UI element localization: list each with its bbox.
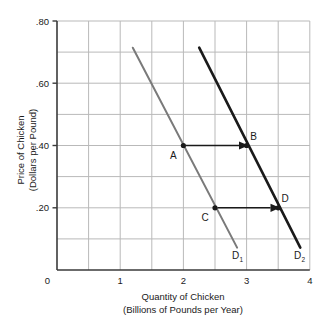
marker-label-d: D bbox=[282, 193, 289, 204]
chart-background bbox=[0, 0, 323, 320]
y-tick-label-origin: 0 bbox=[45, 275, 50, 286]
x-tick-label: 3 bbox=[244, 275, 249, 286]
y-tick-label: .80 bbox=[36, 16, 49, 27]
x-axis-title-main: Quantity of Chicken bbox=[142, 291, 225, 302]
marker-label-b: B bbox=[250, 131, 257, 142]
curve-label-d1: D bbox=[232, 250, 239, 261]
y-axis-title: Price of Chicken (Dollars per Pound) bbox=[15, 109, 38, 191]
x-tick-label: 2 bbox=[181, 275, 186, 286]
marker-point-b bbox=[244, 143, 249, 148]
y-axis-title-main: Price of Chicken bbox=[15, 115, 26, 184]
curve-label-d2-subscript: 2 bbox=[302, 256, 306, 263]
x-tick-label: 4 bbox=[307, 275, 312, 286]
curve-label-d2: D bbox=[294, 250, 301, 261]
demand-curve-chart: .80 .60 .40 .20 0 1 2 3 4 D 1 D 2 bbox=[0, 0, 323, 320]
marker-point-a bbox=[181, 143, 186, 148]
marker-point-c bbox=[212, 205, 217, 210]
marker-label-c: C bbox=[201, 212, 208, 223]
y-axis-title-sub: (Dollars per Pound) bbox=[27, 109, 38, 191]
chart-svg: .80 .60 .40 .20 0 1 2 3 4 D 1 D 2 bbox=[0, 0, 323, 320]
marker-point-d bbox=[276, 205, 281, 210]
marker-label-a: A bbox=[170, 150, 177, 161]
curve-label-d1-subscript: 1 bbox=[240, 256, 244, 263]
x-axis-title-sub: (Billions of Pounds per Year) bbox=[123, 304, 243, 315]
x-tick-label: 1 bbox=[118, 275, 123, 286]
y-tick-label: .20 bbox=[36, 202, 49, 213]
y-tick-label: .60 bbox=[36, 78, 49, 89]
